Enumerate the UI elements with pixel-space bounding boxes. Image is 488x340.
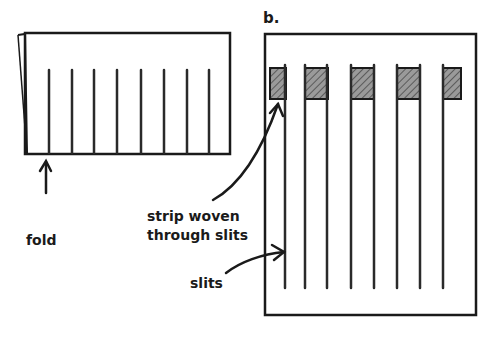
fold-arrow-icon (40, 161, 51, 193)
panel-b-letter: b. (263, 10, 279, 26)
panel-a-outline (25, 33, 230, 154)
panel-a-folded-paper (18, 33, 230, 193)
slits-label: slits (190, 275, 223, 291)
panel-a-slits (49, 70, 209, 153)
strip-label-line1: strip woven (147, 208, 240, 224)
strip-label-line2: through slits (147, 227, 248, 243)
diagram-canvas (0, 0, 488, 340)
strip-arrow-icon (213, 104, 283, 200)
panel-b-woven-paper (213, 34, 476, 315)
fold-label: fold (26, 232, 57, 248)
woven-strip-squares (270, 68, 461, 99)
slits-arrow-icon (226, 245, 284, 273)
